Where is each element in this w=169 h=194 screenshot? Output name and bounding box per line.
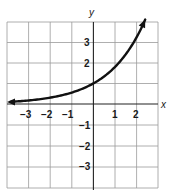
- exponential-curve: [10, 20, 145, 102]
- y-tick-label: −2: [79, 141, 91, 152]
- coordinate-plane: x y −3 −2 −1 1 2 3 2 −1 −2 −3: [0, 0, 169, 194]
- x-tick-label: −2: [41, 109, 53, 120]
- y-axis-label: y: [88, 7, 95, 18]
- x-tick-label: 2: [133, 109, 139, 120]
- x-axis-label: x: [160, 99, 167, 110]
- y-tick-label: −1: [79, 120, 91, 131]
- x-tick-label: −3: [20, 109, 32, 120]
- y-tick-label: −3: [79, 161, 91, 172]
- x-tick-label: −1: [62, 109, 74, 120]
- x-tick-label: 1: [112, 109, 118, 120]
- y-tick-label: 2: [84, 58, 90, 69]
- y-tick-label: 3: [84, 37, 90, 48]
